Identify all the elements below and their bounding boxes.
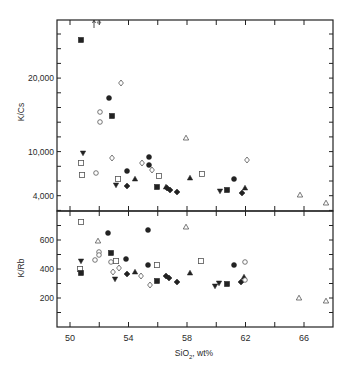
open-circle-marker — [98, 110, 103, 115]
filled-circle-marker — [107, 96, 112, 101]
filled-square-marker — [154, 278, 159, 283]
x-tick-label: 54 — [123, 333, 133, 343]
open-triangle-marker — [95, 238, 100, 243]
bottom-y-axis-title: K/Rb — [16, 258, 26, 277]
filled-circle-marker — [146, 263, 151, 268]
bottom-panel-frame — [57, 211, 333, 327]
open-triangle-marker — [297, 192, 302, 197]
open-diamond-marker — [111, 269, 116, 275]
bottom-y-tick-label: 600 — [40, 235, 54, 245]
filled-circle-marker — [232, 177, 237, 182]
filled-square-marker — [224, 187, 229, 192]
open-circle-marker — [109, 260, 114, 265]
open-triangle-marker — [183, 135, 188, 140]
open-square-marker — [113, 258, 118, 263]
open-diamond-marker — [117, 265, 122, 271]
open-circle-marker — [243, 260, 248, 265]
open-square-marker — [156, 173, 161, 178]
filled-triangle-up-marker — [187, 270, 192, 275]
filled-triangle-up-marker — [242, 185, 247, 190]
filled-triangle-down-marker — [217, 189, 222, 194]
x-tick-label: 58 — [182, 333, 192, 343]
filled-square-marker — [109, 113, 114, 118]
filled-triangle-up-marker — [187, 175, 192, 180]
open-square-marker — [78, 219, 83, 224]
filled-triangle-down-marker — [113, 183, 118, 188]
filled-circle-marker — [147, 155, 152, 160]
x-tick-label: 62 — [240, 333, 250, 343]
open-square-marker — [199, 171, 204, 176]
filled-triangle-down-marker — [112, 277, 117, 282]
top-panel-frame — [57, 20, 333, 211]
filled-circle-marker — [106, 231, 111, 236]
filled-triangle-down-marker — [78, 259, 83, 264]
filled-circle-marker — [125, 169, 130, 174]
filled-triangle-up-marker — [132, 176, 137, 181]
axis-labels: 505458626620,00010,0004,000600400200K/Cs… — [16, 73, 309, 360]
bottom-y-tick-label: 400 — [40, 264, 54, 274]
filled-square-marker — [108, 250, 113, 255]
open-triangle-marker — [183, 224, 188, 229]
open-circle-marker — [243, 278, 248, 283]
open-diamond-marker — [110, 155, 115, 161]
open-triangle-marker — [296, 295, 301, 300]
filled-square-marker — [78, 270, 83, 275]
filled-diamond-marker — [239, 190, 245, 196]
open-square-marker — [115, 176, 120, 181]
top-y-tick-label: 10,000 — [28, 147, 54, 157]
open-diamond-marker — [140, 160, 145, 166]
filled-square-marker — [78, 37, 83, 42]
filled-square-marker — [154, 184, 159, 189]
chart-container: 505458626620,00010,0004,000600400200K/Cs… — [0, 0, 354, 368]
top-panel-points — [78, 37, 328, 205]
top-y-tick-label: 4,000 — [33, 191, 55, 201]
filled-circle-marker — [147, 163, 152, 168]
open-diamond-marker — [245, 157, 250, 163]
filled-diamond-marker — [124, 183, 130, 189]
filled-circle-marker — [146, 228, 151, 233]
filled-triangle-down-marker — [80, 151, 85, 156]
x-tick-label: 50 — [65, 333, 75, 343]
filled-circle-marker — [232, 263, 237, 268]
filled-diamond-marker — [174, 189, 180, 195]
open-diamond-marker — [119, 80, 124, 86]
filled-triangle-down-marker — [212, 284, 217, 289]
filled-diamond-marker — [174, 279, 180, 285]
bottom-panel-points — [77, 219, 328, 303]
open-square-marker — [79, 172, 84, 177]
filled-circle-marker — [124, 257, 129, 262]
open-square-marker — [198, 258, 203, 263]
open-circle-marker — [98, 120, 103, 125]
open-square-marker — [78, 160, 83, 165]
top-y-tick-label: 20,000 — [28, 73, 54, 83]
open-diamond-marker — [139, 273, 144, 279]
filled-square-marker — [224, 281, 229, 286]
open-circle-marker — [97, 253, 102, 258]
bottom-y-tick-label: 200 — [40, 293, 54, 303]
filled-triangle-up-marker — [132, 269, 137, 274]
open-square-marker — [154, 262, 159, 267]
open-circle-marker — [93, 258, 98, 263]
scatter-plot: 505458626620,00010,0004,000600400200K/Cs… — [0, 0, 354, 368]
x-axis-title: SiO2, wt% — [175, 348, 214, 360]
filled-diamond-marker — [124, 271, 130, 277]
open-diamond-marker — [150, 167, 155, 173]
open-triangle-marker — [323, 200, 328, 205]
open-diamond-marker — [148, 282, 153, 288]
open-circle-marker — [94, 171, 99, 176]
top-y-axis-title: K/Cs — [16, 103, 26, 121]
open-triangle-marker — [323, 298, 328, 303]
x-tick-label: 66 — [299, 333, 309, 343]
